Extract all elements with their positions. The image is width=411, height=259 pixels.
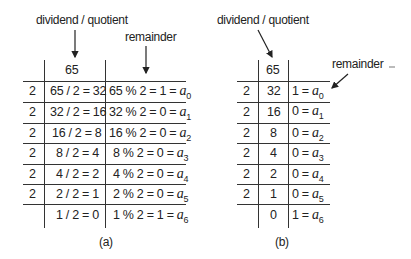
quotient-cell: 65 / 2 = 32 <box>50 84 106 98</box>
stray-mark <box>389 66 395 68</box>
remainder-cell: 0 = a2 <box>292 125 323 143</box>
divider-horizontal <box>23 102 186 103</box>
divisor-cell: 2 <box>243 105 250 119</box>
divisor-cell: 2 <box>29 187 36 201</box>
divisor-cell: 2 <box>29 105 36 119</box>
header-value: 65 <box>65 63 78 77</box>
arrow-dividend-b <box>258 30 272 57</box>
caption-a: (a) <box>99 235 113 249</box>
divider-horizontal <box>23 164 186 165</box>
divider-vertical <box>288 60 289 228</box>
divider-horizontal <box>237 184 330 185</box>
remainder-cell: 32 % 2 = 0 = a1 <box>109 104 191 122</box>
remainder-cell: 4 % 2 = 0 = a4 <box>113 166 188 184</box>
divider-horizontal <box>23 143 186 144</box>
divider-horizontal <box>237 143 330 144</box>
divisor-cell: 2 <box>243 187 250 201</box>
divider-horizontal <box>237 204 330 205</box>
quotient-cell: 1 / 2 = 0 <box>56 208 99 222</box>
divider-horizontal <box>237 81 330 82</box>
remainder-cell: 2 % 2 = 0 = a5 <box>113 186 188 204</box>
quotient-cell: 2 / 2 = 1 <box>56 187 99 201</box>
quotient-cell: 2 <box>270 167 277 181</box>
divider-horizontal <box>237 123 330 124</box>
remainder-cell: 0 = a1 <box>292 103 323 121</box>
quotient-cell: 4 <box>270 146 277 160</box>
divider-horizontal <box>23 81 186 82</box>
divisor-cell: 2 <box>243 84 250 98</box>
quotient-cell: 1 <box>270 187 277 201</box>
divisor-cell: 2 <box>29 146 36 160</box>
quotient-cell: 16 <box>267 105 280 119</box>
remainder-cell: 1 = a6 <box>292 207 323 225</box>
divider-vertical <box>44 60 45 228</box>
label-remainder: remainder <box>332 57 383 71</box>
label-dividend-quotient: dividend / quotient <box>36 13 128 27</box>
remainder-cell: 1 = a0 <box>292 83 323 101</box>
quotient-cell: 32 <box>267 84 280 98</box>
divider-horizontal <box>23 123 186 124</box>
divider-horizontal <box>23 204 186 205</box>
arrow-remainder-b <box>332 74 348 88</box>
quotient-cell: 8 / 2 = 4 <box>56 146 99 160</box>
quotient-cell: 8 <box>270 126 277 140</box>
divisor-cell: 2 <box>243 126 250 140</box>
divisor-cell: 2 <box>29 84 36 98</box>
divisor-cell: 2 <box>29 167 36 181</box>
remainder-cell: 16 % 2 = 0 = a2 <box>109 125 191 143</box>
header-value: 65 <box>266 63 279 77</box>
divisor-cell: 2 <box>29 126 36 140</box>
quotient-cell: 4 / 2 = 2 <box>56 167 99 181</box>
remainder-cell: 0 = a5 <box>292 186 323 204</box>
remainder-cell: 8 % 2 = 0 = a3 <box>113 145 188 163</box>
divider-horizontal <box>23 184 186 185</box>
quotient-cell: 0 <box>270 208 277 222</box>
remainder-cell: 1 % 2 = 1 = a6 <box>113 207 188 225</box>
divisor-cell: 2 <box>243 167 250 181</box>
caption-b: (b) <box>275 235 289 249</box>
remainder-cell: 65 % 2 = 1 = a0 <box>109 83 191 101</box>
divisor-cell: 2 <box>243 146 250 160</box>
quotient-cell: 16 / 2 = 8 <box>52 126 101 140</box>
divider-horizontal <box>237 164 330 165</box>
remainder-cell: 0 = a3 <box>292 145 323 163</box>
remainder-cell: 0 = a4 <box>292 166 323 184</box>
divider-vertical <box>258 60 259 228</box>
label-dividend-quotient: dividend / quotient <box>217 13 309 27</box>
label-remainder: remainder <box>125 30 176 44</box>
quotient-cell: 32 / 2 = 16 <box>50 105 106 119</box>
